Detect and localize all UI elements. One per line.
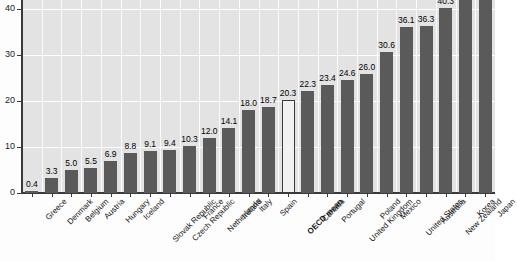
x-tick-mark	[387, 193, 388, 197]
bar	[262, 107, 275, 193]
x-tick-mark	[347, 193, 348, 197]
bar	[84, 168, 97, 193]
gridline-vertical	[337, 0, 338, 193]
gridline-vertical	[475, 0, 476, 193]
gridline-vertical	[456, 0, 457, 193]
bar	[45, 178, 58, 193]
y-tick-mark	[17, 55, 22, 56]
bar-value-label: 26.0	[354, 63, 380, 72]
gridline-vertical	[436, 0, 437, 193]
bar-value-label: 36.3	[413, 15, 439, 24]
bar	[400, 27, 413, 193]
x-tick-mark	[288, 193, 289, 197]
x-tick-mark	[268, 193, 269, 197]
bar	[163, 150, 176, 193]
bar	[222, 128, 235, 193]
y-tick-label: 40	[0, 4, 15, 13]
x-tick-mark	[71, 193, 72, 197]
gridline-vertical	[121, 0, 122, 193]
bar-value-label: 20.3	[275, 89, 301, 98]
bar-value-label: 6.9	[98, 150, 124, 159]
x-tick-mark	[327, 193, 328, 197]
gridline-vertical	[219, 0, 220, 193]
x-tick-mark	[446, 193, 447, 197]
x-tick-mark	[190, 193, 191, 197]
bar	[183, 146, 196, 193]
x-tick-mark	[209, 193, 210, 197]
bar-oecd-mean	[282, 100, 295, 193]
x-tick-mark	[485, 193, 486, 197]
bar-value-label: 0.4	[19, 180, 45, 189]
bar	[439, 8, 452, 193]
x-tick-mark	[170, 193, 171, 197]
x-tick-mark	[32, 193, 33, 197]
x-tick-mark	[426, 193, 427, 197]
x-tick-mark	[52, 193, 53, 197]
gridline-vertical	[42, 0, 43, 193]
bar-value-label: 12.0	[196, 127, 222, 136]
y-tick-label: 0	[0, 188, 15, 197]
bar	[321, 85, 334, 193]
bar	[301, 91, 314, 193]
bar	[479, 0, 492, 193]
bar	[104, 161, 117, 193]
y-tick-mark	[17, 147, 22, 148]
x-tick-mark	[111, 193, 112, 197]
bar	[65, 170, 78, 193]
gridline-vertical	[377, 0, 378, 193]
gridline-vertical	[416, 0, 417, 193]
x-tick-mark	[229, 193, 230, 197]
y-tick-label: 20	[0, 96, 15, 105]
bar	[420, 26, 433, 193]
gridline-vertical	[160, 0, 161, 193]
bar	[459, 0, 472, 193]
x-tick-mark	[406, 193, 407, 197]
x-axis-label: Spain	[278, 197, 299, 218]
bar-value-label: 30.6	[374, 41, 400, 50]
x-axis-label: Greece	[44, 197, 69, 222]
bar-value-label: 10.3	[177, 135, 203, 144]
y-tick-mark	[17, 9, 22, 10]
bar	[341, 80, 354, 193]
y-tick-mark	[17, 193, 22, 194]
y-tick-label: 30	[0, 50, 15, 59]
gridline-vertical	[396, 0, 397, 193]
gridline-vertical	[199, 0, 200, 193]
x-tick-mark	[465, 193, 466, 197]
gridline-vertical	[239, 0, 240, 193]
bar	[144, 151, 157, 193]
bar	[242, 110, 255, 193]
gridline-vertical	[140, 0, 141, 193]
y-tick-label: 10	[0, 142, 15, 151]
bar	[203, 138, 216, 193]
x-tick-mark	[150, 193, 151, 197]
y-tick-mark	[17, 101, 22, 102]
bar	[380, 52, 393, 193]
gridline-vertical	[357, 0, 358, 193]
bar-value-label: 14.1	[216, 117, 242, 126]
bar-value-label: 40.3	[433, 0, 459, 6]
x-tick-mark	[367, 193, 368, 197]
y-axis	[21, 0, 23, 194]
bar	[360, 74, 373, 193]
x-tick-mark	[130, 193, 131, 197]
x-tick-mark	[308, 193, 309, 197]
x-tick-mark	[249, 193, 250, 197]
gridline-vertical	[180, 0, 181, 193]
gridline-vertical	[318, 0, 319, 193]
x-tick-mark	[91, 193, 92, 197]
bar	[124, 153, 137, 193]
bar-value-label: 3.3	[39, 167, 65, 176]
